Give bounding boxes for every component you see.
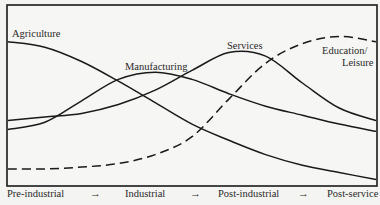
label-manufacturing: Manufacturing (125, 61, 187, 73)
label-education-line2: Leisure (342, 57, 374, 69)
chart-frame (7, 5, 377, 186)
arrow-icon: → (90, 187, 101, 199)
label-services: Services (227, 40, 263, 52)
stage-pre-industrial: Pre-industrial (7, 188, 64, 199)
arrow-icon: → (298, 187, 309, 199)
label-education-line1: Education/ (322, 45, 368, 57)
arrow-icon: → (190, 187, 201, 199)
stage-post-industrial: Post-industrial (218, 188, 279, 199)
stage-post-service: Post-service (327, 188, 378, 199)
label-agriculture: Agriculture (12, 28, 60, 40)
stage-industrial: Industrial (125, 188, 165, 199)
